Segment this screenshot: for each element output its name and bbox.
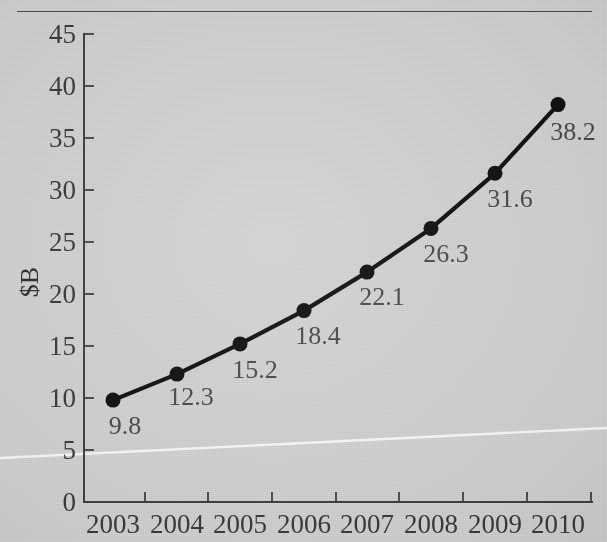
data-point-2010[interactable]	[551, 97, 566, 112]
y-axis-tick-labels: 0 5 10 15 20 25 30 35 40 45	[49, 19, 76, 517]
data-point-2009[interactable]	[488, 166, 503, 181]
x-axis-ticks	[145, 492, 527, 502]
x-axis-tick-labels: 2003 2004 2005 2006 2007 2008 2009 2010	[86, 509, 585, 539]
x-tick-label-2008: 2008	[404, 509, 458, 539]
data-point-2005[interactable]	[233, 336, 248, 351]
y-tick-label-20: 20	[49, 279, 76, 309]
data-label-2005: 15.2	[232, 355, 278, 384]
data-label-2004: 12.3	[168, 382, 214, 411]
y-tick-label-30: 30	[49, 175, 76, 205]
x-tick-label-2005: 2005	[213, 509, 267, 539]
y-tick-label-45: 45	[49, 19, 76, 49]
data-point-2007[interactable]	[360, 265, 375, 280]
data-point-labels: 9.8 12.3 15.2 18.4 22.1 26.3 31.6 38.2	[109, 117, 596, 440]
x-tick-label-2010: 2010	[531, 509, 585, 539]
series-line-path	[113, 105, 558, 401]
series-markers	[106, 97, 566, 408]
data-label-2010: 38.2	[550, 117, 596, 146]
x-tick-label-2009: 2009	[468, 509, 522, 539]
y-axis-title: $B	[15, 267, 44, 297]
y-tick-label-10: 10	[49, 383, 76, 413]
y-tick-label-0: 0	[63, 487, 77, 517]
y-tick-label-40: 40	[49, 71, 76, 101]
data-point-2006[interactable]	[297, 303, 312, 318]
data-label-2007: 22.1	[359, 282, 405, 311]
data-point-2003[interactable]	[106, 393, 121, 408]
y-tick-label-25: 25	[49, 227, 76, 257]
line-chart: 0 5 10 15 20 25 30 35 40 45 $B 2003 2004	[0, 0, 607, 542]
x-tick-label-2004: 2004	[150, 509, 205, 539]
y-tick-label-35: 35	[49, 123, 76, 153]
data-point-2004[interactable]	[170, 367, 185, 382]
chart-page: 0 5 10 15 20 25 30 35 40 45 $B 2003 2004	[0, 0, 607, 542]
x-tick-label-2007: 2007	[340, 509, 394, 539]
y-tick-label-15: 15	[49, 331, 76, 361]
data-label-2006: 18.4	[295, 321, 341, 350]
y-tick-label-5: 5	[63, 435, 77, 465]
y-axis-ticks	[84, 34, 94, 502]
data-label-2009: 31.6	[487, 184, 533, 213]
data-label-2003: 9.8	[109, 411, 142, 440]
data-label-2008: 26.3	[423, 239, 469, 268]
x-tick-label-2006: 2006	[277, 509, 331, 539]
data-point-2008[interactable]	[424, 221, 439, 236]
x-tick-label-2003: 2003	[86, 509, 140, 539]
